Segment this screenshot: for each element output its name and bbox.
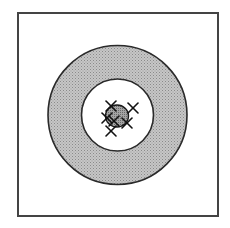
target-diagram xyxy=(0,0,230,228)
